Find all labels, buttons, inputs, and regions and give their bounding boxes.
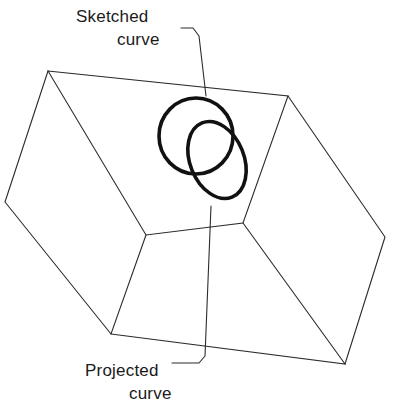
technical-diagram-svg: Sketched curve Projected curve bbox=[0, 0, 393, 407]
projected-curve-label-line1: Projected bbox=[85, 361, 159, 380]
box-faces bbox=[5, 71, 385, 364]
label-projected-curve: Projected curve bbox=[85, 361, 172, 403]
projected-curve-label-line2: curve bbox=[129, 384, 172, 403]
sketched-curve-label-line2: curve bbox=[117, 30, 160, 49]
sketched-curve-label-line1: Sketched bbox=[76, 7, 148, 26]
diagram-canvas: Sketched curve Projected curve bbox=[0, 0, 393, 407]
label-sketched-curve: Sketched curve bbox=[76, 7, 160, 49]
